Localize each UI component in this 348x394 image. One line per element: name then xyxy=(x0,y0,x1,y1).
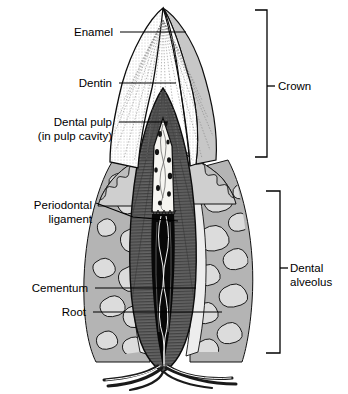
tooth-diagram-canvas: Enamel Dentin Dental pulp (in pulp cavit… xyxy=(0,0,348,394)
label-enamel: Enamel xyxy=(74,26,113,38)
tooth-anatomy-diagram: Enamel Dentin Dental pulp (in pulp cavit… xyxy=(0,0,348,394)
label-dental-pulp: Dental pulp xyxy=(54,116,112,128)
label-crown: Crown xyxy=(278,80,311,92)
label-cementum: Cementum xyxy=(32,282,88,294)
label-periodontal-ligament: Periodontal xyxy=(34,199,92,211)
label-dental-alveolus: Dental xyxy=(290,262,323,274)
label-root: Root xyxy=(62,306,87,318)
label-dental-alveolus-sub: alveolus xyxy=(290,276,332,288)
label-periodontal-ligament-sub: ligament xyxy=(49,213,93,225)
label-dental-pulp-sub: (in pulp cavity) xyxy=(38,130,112,142)
label-dentin: Dentin xyxy=(79,77,112,89)
